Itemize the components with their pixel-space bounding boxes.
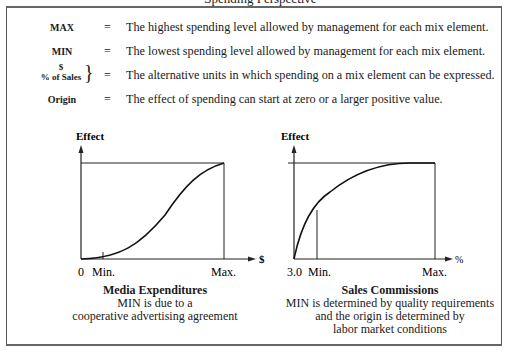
arrow-right-icon (445, 257, 453, 262)
tick-0: 0 (78, 265, 84, 279)
caption-media-expenditures: Media Expenditures MIN is due to a coope… (40, 284, 270, 323)
chart-media-expenditures: Effect $ 0 Min. Max. (76, 130, 265, 279)
concave-curve (294, 163, 435, 259)
arrow-right-icon (248, 257, 256, 262)
y-axis-label: Effect (281, 130, 309, 142)
tick-min: Min. (308, 265, 331, 279)
arrow-up-icon (292, 145, 297, 153)
y-axis-label: Effect (76, 130, 104, 142)
x-axis-label: $ (259, 253, 265, 265)
caption-sales-commissions: Sales Commissions MIN is determined by q… (270, 284, 510, 336)
tick-max: Max. (422, 265, 447, 279)
tick-max: Max. (211, 265, 236, 279)
caption-line: labor market conditions (270, 323, 510, 336)
caption-line: cooperative advertising agreement (40, 310, 270, 323)
tick-min: Min. (92, 265, 115, 279)
chart-sales-commissions: Effect % 3.0 Min. Max. (281, 130, 463, 279)
s-curve (81, 163, 224, 259)
x-axis-label: % (455, 254, 463, 265)
arrow-up-icon (79, 145, 84, 153)
tick-origin: 3.0 (287, 265, 302, 279)
